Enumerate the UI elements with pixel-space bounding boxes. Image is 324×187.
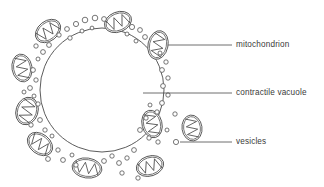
vesicle-1 [82, 17, 88, 23]
vesicle-4 [65, 27, 70, 32]
label-mitochondrion: mitochondrion [236, 40, 290, 49]
label-vesicles: vesicles [236, 137, 266, 146]
vesicle-3 [102, 17, 107, 22]
vesicle-12 [143, 35, 148, 40]
vesicle-54 [173, 112, 177, 116]
vesicle-9 [129, 24, 134, 29]
vesicle-14 [47, 43, 52, 48]
vesicle-5 [57, 33, 61, 37]
vesicle-10 [138, 28, 143, 33]
vesicle-20 [28, 86, 33, 91]
vesicle-22 [36, 102, 40, 106]
vesicle-47 [155, 110, 159, 114]
vesicle-21 [32, 94, 36, 98]
vesicle-33 [102, 159, 107, 164]
diagram-canvas: mitochondrioncontractile vacuolevesicles [0, 0, 324, 187]
vesicle-44 [161, 84, 166, 89]
vesicle-27 [50, 134, 54, 138]
vesicle-8 [90, 26, 94, 30]
vesicle-23 [22, 90, 26, 94]
vesicle-32 [74, 163, 78, 167]
vesicle-2 [92, 15, 98, 21]
labels-group: mitochondrioncontractile vacuolevesicles [236, 40, 307, 146]
vesicle-41 [164, 60, 168, 64]
vesicle-0 [73, 21, 78, 26]
vesicle-24 [29, 123, 33, 127]
cell-diagram: mitochondrioncontractile vacuolevesicles [0, 0, 324, 187]
vesicle-50 [138, 128, 143, 133]
vesicle-49 [144, 116, 148, 120]
vesicle-16 [34, 44, 38, 48]
vesicle-19 [34, 78, 38, 82]
vesicle-40 [158, 51, 162, 55]
vesicle-13 [134, 39, 138, 43]
vesicle-51 [147, 136, 151, 140]
vesicle-46 [160, 101, 165, 106]
vesicle-30 [61, 158, 66, 163]
vesicle-52 [156, 140, 160, 144]
vesicle-25 [38, 118, 43, 123]
vesicle-28 [46, 157, 51, 162]
mitochondrion-4 [12, 94, 42, 127]
vesicle-42 [160, 68, 165, 73]
vesicle-36 [125, 156, 129, 160]
vesicle-48 [148, 103, 152, 107]
vesicle-15 [41, 50, 46, 55]
mitochondrion-6 [71, 156, 103, 180]
label-contractile-vacuole: contractile vacuole [236, 88, 307, 97]
vesicle-37 [132, 148, 137, 153]
vesicle-29 [56, 148, 60, 152]
mitochondrion-5 [23, 128, 57, 161]
vesicle-17 [36, 57, 40, 61]
vesicle-45 [166, 93, 170, 97]
vesicle-53 [173, 139, 178, 144]
vesicle-26 [43, 128, 47, 132]
mitochondrion-3 [10, 52, 35, 83]
mitochondrion-9 [180, 114, 203, 143]
vesicle-43 [166, 76, 170, 80]
vesicle-35 [117, 161, 122, 166]
vesicle-11 [125, 32, 129, 36]
vesicle-7 [80, 29, 84, 33]
vesicle-31 [70, 153, 74, 157]
vesicle-55 [165, 128, 169, 132]
vesicle-39 [136, 176, 140, 180]
vesicle-6 [68, 36, 72, 40]
vesicle-34 [110, 154, 114, 158]
vesicle-18 [31, 68, 36, 73]
vesicle-38 [120, 171, 124, 175]
